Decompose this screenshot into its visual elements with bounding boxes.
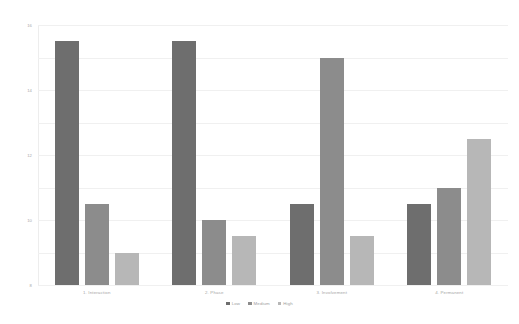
bar-medium[interactable] <box>320 58 344 286</box>
legend-swatch-icon <box>226 302 230 306</box>
bar-chart: 0246810121416 1. Interaction2. Phase3. I… <box>0 0 519 324</box>
y-axis-tick-label: 8 <box>30 283 32 288</box>
legend-item[interactable]: Medium <box>248 301 270 306</box>
bar-high[interactable] <box>467 139 491 285</box>
bar-high[interactable] <box>350 236 374 285</box>
y-axis-tick-label: 14 <box>27 88 32 93</box>
bar-medium[interactable] <box>437 188 461 286</box>
legend-swatch-icon <box>278 302 282 306</box>
plot-area: 0246810121416 1. Interaction2. Phase3. I… <box>38 25 508 285</box>
bar-low[interactable] <box>55 41 79 285</box>
bar-high[interactable] <box>232 236 256 285</box>
x-axis-category-label: 1. Interaction <box>83 290 110 295</box>
bar-low[interactable] <box>290 204 314 285</box>
bar-group: 1. Interaction <box>38 25 156 285</box>
x-axis-category-label: 4. Permanent <box>435 290 463 295</box>
bar-group: 4. Permanent <box>391 25 509 285</box>
legend-swatch-icon <box>248 302 252 306</box>
bar-groups: 1. Interaction2. Phase3. Involvement4. P… <box>38 25 508 285</box>
legend-label: High <box>283 301 292 306</box>
y-axis-tick-label: 16 <box>27 23 32 28</box>
legend-label: Low <box>232 301 240 306</box>
bar-medium[interactable] <box>202 220 226 285</box>
x-axis-category-label: 2. Phase <box>205 290 224 295</box>
bar-group: 3. Involvement <box>273 25 391 285</box>
bar-group: 2. Phase <box>156 25 274 285</box>
legend-item[interactable]: Low <box>226 301 240 306</box>
y-axis-tick-label: 12 <box>27 153 32 158</box>
bar-high[interactable] <box>115 253 139 286</box>
legend-item[interactable]: High <box>278 301 293 306</box>
y-axis-tick-label: 10 <box>27 218 32 223</box>
bar-low[interactable] <box>172 41 196 285</box>
gridline: 0 <box>38 285 508 286</box>
bar-medium[interactable] <box>85 204 109 285</box>
x-axis-category-label: 3. Involvement <box>316 290 347 295</box>
chart-legend: LowMediumHigh <box>0 301 519 306</box>
bar-low[interactable] <box>407 204 431 285</box>
legend-label: Medium <box>254 301 270 306</box>
